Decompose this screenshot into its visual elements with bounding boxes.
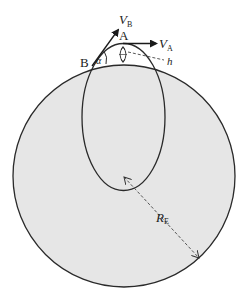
angle-alpha-label: α xyxy=(96,55,102,66)
angle-alpha-arc xyxy=(104,51,107,64)
orbit-diagram: VB A VA h B α RE xyxy=(0,0,246,301)
earth-circle xyxy=(13,65,235,287)
height-indicator xyxy=(119,47,127,63)
point-b-label: B xyxy=(80,55,89,70)
vector-vb-label: VB xyxy=(119,12,132,29)
vector-va-label: VA xyxy=(159,36,173,53)
height-label: h xyxy=(167,55,173,67)
point-a-label: A xyxy=(119,28,129,43)
